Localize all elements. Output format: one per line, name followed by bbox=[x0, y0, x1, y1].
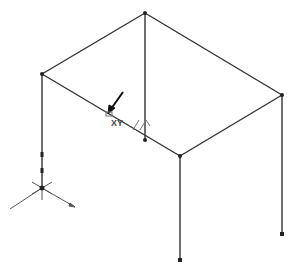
column-marker-2 bbox=[41, 168, 44, 173]
node-back-bottom[interactable] bbox=[143, 138, 147, 142]
beam-back-right bbox=[145, 13, 282, 95]
node-front-top[interactable] bbox=[178, 154, 182, 158]
node-right-top[interactable] bbox=[280, 93, 284, 97]
beam-front-right bbox=[180, 95, 282, 156]
diagram-canvas: XY bbox=[0, 0, 292, 269]
origin-node bbox=[40, 186, 45, 191]
node-left-top[interactable] bbox=[40, 72, 44, 76]
node-right-bottom[interactable] bbox=[280, 232, 284, 236]
column-marker-1 bbox=[41, 152, 44, 157]
pointer-arrow-icon bbox=[108, 92, 123, 114]
beam-back-left bbox=[42, 13, 145, 74]
node-top-back[interactable] bbox=[143, 11, 147, 15]
beam-front-left bbox=[42, 74, 180, 156]
frame-drawing bbox=[0, 0, 292, 269]
node-front-bottom[interactable] bbox=[178, 258, 182, 262]
xy-plane-label: XY bbox=[111, 118, 123, 128]
